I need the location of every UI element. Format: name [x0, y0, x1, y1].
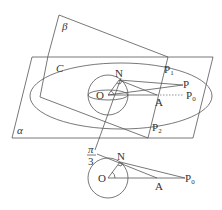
label-angle-numerator: π	[88, 143, 94, 155]
bottom-segment-NA	[97, 154, 157, 178]
label-alpha: α	[17, 124, 23, 136]
bottom-label-o: O	[98, 172, 106, 184]
geometry-diagram: β α C N O A P P0 P1 P2 π 3 N O A P0	[0, 0, 222, 210]
bottom-label-p0: P0	[185, 172, 195, 186]
label-c: C	[56, 62, 64, 74]
label-n: N	[115, 67, 123, 79]
bottom-segment-NP0	[120, 162, 185, 178]
segment-NP	[119, 80, 183, 85]
label-beta: β	[61, 20, 68, 32]
bottom-label-n: N	[117, 150, 125, 162]
label-p1: P1	[164, 63, 174, 77]
bottom-segment-ON	[108, 162, 120, 178]
bottom-label-a: A	[155, 180, 163, 192]
label-a: A	[155, 96, 163, 108]
bottom-angle-mark	[112, 172, 115, 178]
label-p2: P2	[152, 121, 162, 135]
plane-beta-bottom	[40, 97, 148, 138]
segment-OP	[108, 85, 183, 95]
label-o: O	[96, 89, 104, 101]
label-p0: P0	[186, 89, 196, 103]
